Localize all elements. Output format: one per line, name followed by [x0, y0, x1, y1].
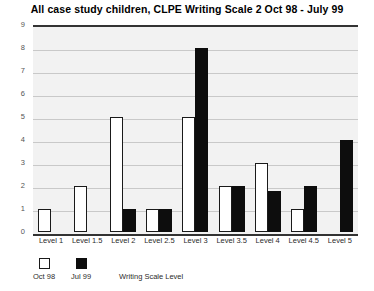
x-tick-label: Level 1 [33, 236, 69, 245]
bar-group [250, 25, 286, 232]
bar-jul [304, 186, 317, 232]
y-tick-label: 5 [21, 113, 25, 121]
x-axis: Level 1Level 1.5Level 2Level 2.5Level 3L… [33, 236, 358, 245]
y-tick-label: 3 [21, 159, 25, 167]
bar-group [214, 25, 250, 232]
x-tick-label: Level 3 [177, 236, 213, 245]
bar-group [69, 25, 105, 232]
bar-oct [146, 209, 159, 232]
bar-jul [340, 140, 353, 232]
legend-label: Jul 99 [71, 272, 91, 281]
y-tick-label: 6 [21, 90, 25, 98]
bar-oct [74, 186, 87, 232]
y-tick-label: 9 [21, 21, 25, 29]
black-square-swatch [76, 258, 87, 269]
y-tick-label: 8 [21, 44, 25, 52]
bars-layer [33, 25, 358, 232]
bar-jul [159, 209, 172, 232]
x-tick-label: Level 2.5 [141, 236, 177, 245]
bar-group [33, 25, 69, 232]
legend-entry: Oct 98 [33, 258, 55, 281]
bar-group [141, 25, 177, 232]
chart-title: All case study children, CLPE Writing Sc… [0, 3, 374, 16]
bar-oct [219, 186, 232, 232]
bar-oct [291, 209, 304, 232]
bar-group [286, 25, 322, 232]
x-tick-label: Level 4 [250, 236, 286, 245]
bar-group [177, 25, 213, 232]
bar-jul [123, 209, 136, 232]
y-axis: 0123456789 [0, 25, 29, 232]
y-tick-label: 4 [21, 136, 25, 144]
y-tick-label: 2 [21, 182, 25, 190]
bar-group [105, 25, 141, 232]
y-tick-label: 7 [21, 67, 25, 75]
bar-oct [255, 163, 268, 232]
bar-jul [195, 48, 208, 232]
white-square-swatch [39, 258, 50, 269]
x-tick-label: Level 1.5 [69, 236, 105, 245]
legend-label: Oct 98 [33, 272, 55, 281]
x-tick-label: Level 3.5 [214, 236, 250, 245]
x-tick-label: Level 5 [322, 236, 358, 245]
legend-entries: Oct 98Jul 99 [33, 258, 107, 281]
x-axis-title: Writing Scale Level [119, 272, 183, 281]
bar-jul [232, 186, 245, 232]
bar-jul [268, 191, 281, 232]
chart-legend: Oct 98Jul 99 Writing Scale Level [33, 258, 183, 281]
bar-group [322, 25, 358, 232]
bar-oct [182, 117, 195, 232]
y-tick-label: 0 [21, 228, 25, 236]
y-tick-label: 1 [21, 205, 25, 213]
x-tick-label: Level 4.5 [286, 236, 322, 245]
bar-chart: All case study children, CLPE Writing Sc… [0, 0, 374, 291]
legend-entry: Jul 99 [71, 258, 91, 281]
bar-oct [38, 209, 51, 232]
x-tick-label: Level 2 [105, 236, 141, 245]
bar-oct [110, 117, 123, 232]
